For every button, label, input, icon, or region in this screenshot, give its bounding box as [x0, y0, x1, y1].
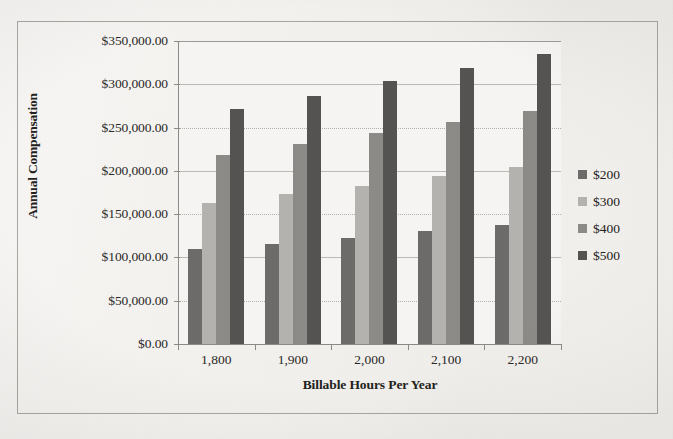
legend-item-rate200: $200	[578, 161, 650, 188]
bar-group	[331, 41, 408, 344]
legend-swatch-icon	[578, 197, 587, 206]
bar-2200-rate200	[495, 225, 509, 344]
x-axis-tick	[178, 345, 179, 350]
y-axis-tick-label: $150,000.00	[102, 206, 168, 222]
bar-1800-rate300	[202, 203, 216, 344]
legend-item-rate500: $500	[578, 242, 650, 269]
bar-1800-rate200	[188, 249, 202, 344]
bar-1800-rate400	[216, 155, 230, 344]
bar-1900-rate400	[293, 144, 307, 344]
x-axis-tick	[331, 345, 332, 350]
legend-swatch-icon	[578, 224, 587, 233]
y-axis-tick-label: $350,000.00	[102, 33, 168, 49]
y-axis-tick	[174, 257, 180, 258]
y-axis-tick-label: $250,000.00	[102, 120, 168, 136]
x-axis-tick-label: 1,900	[278, 352, 308, 368]
y-axis-tick-label: $50,000.00	[108, 293, 168, 309]
bar-2000-rate500	[383, 81, 397, 344]
bar-2000-rate300	[355, 186, 369, 344]
y-axis-tick-labels: $0.00$50,000.00$100,000.00$150,000.00$20…	[0, 41, 168, 344]
bar-2000-rate200	[341, 238, 355, 344]
legend-item-label: $400	[593, 221, 620, 237]
y-axis-tick-label: $0.00	[138, 336, 168, 352]
bar-1900-rate500	[307, 96, 321, 344]
y-axis-tick-label: $200,000.00	[102, 163, 168, 179]
bar-group	[178, 41, 255, 344]
y-axis-tick	[174, 214, 180, 215]
legend-item-label: $500	[593, 248, 620, 264]
bar-group	[484, 41, 561, 344]
x-axis-tick	[561, 345, 562, 350]
legend-swatch-icon	[578, 170, 587, 179]
y-axis-tick-label: $300,000.00	[102, 76, 168, 92]
bar-1800-rate500	[230, 109, 244, 344]
x-axis-line	[178, 344, 562, 345]
bar-group	[255, 41, 332, 344]
bar-2100-rate500	[460, 68, 474, 344]
bar-2100-rate300	[432, 176, 446, 344]
legend-item-rate300: $300	[578, 188, 650, 215]
chart-legend: $200$300$400$500	[578, 161, 650, 269]
x-axis-tick-label: 2,000	[354, 352, 384, 368]
x-axis-tick	[408, 345, 409, 350]
plot-area	[178, 41, 561, 344]
x-axis-tick-label: 1,800	[201, 352, 231, 368]
bar-2100-rate200	[418, 231, 432, 344]
chart-screenshot: Annual Compensation $0.00$50,000.00$100,…	[0, 0, 673, 439]
x-axis-tick-label: 2,100	[431, 352, 461, 368]
y-axis-tick	[174, 301, 180, 302]
legend-item-label: $200	[593, 167, 620, 183]
bar-2200-rate400	[523, 111, 537, 344]
legend-swatch-icon	[578, 251, 587, 260]
x-axis-tick	[484, 345, 485, 350]
y-axis-tick	[174, 128, 180, 129]
legend-item-rate400: $400	[578, 215, 650, 242]
bar-2200-rate500	[537, 54, 551, 344]
x-axis-tick-label: 2,200	[508, 352, 538, 368]
bar-2000-rate400	[369, 133, 383, 344]
bar-2200-rate300	[509, 167, 523, 344]
legend-item-label: $300	[593, 194, 620, 210]
y-axis-tick	[174, 171, 180, 172]
x-axis-tick	[255, 345, 256, 350]
y-axis-tick-label: $100,000.00	[102, 249, 168, 265]
y-axis-tick	[174, 84, 180, 85]
x-axis-title: Billable Hours Per Year	[178, 377, 562, 393]
bar-group	[408, 41, 485, 344]
bar-1900-rate300	[279, 194, 293, 344]
y-axis-line	[178, 41, 179, 345]
y-axis-tick	[174, 41, 180, 42]
bar-2100-rate400	[446, 122, 460, 344]
x-axis-tick-labels: 1,8001,9002,0002,1002,200	[178, 352, 562, 374]
bar-1900-rate200	[265, 244, 279, 344]
